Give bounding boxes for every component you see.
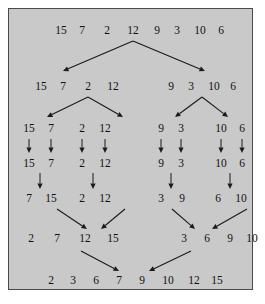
merge-sort-figure: 1572129310615721293106157212931061572129… <box>8 8 253 290</box>
arrow-head-5 <box>222 112 228 117</box>
arrow-head-6 <box>26 148 31 154</box>
value-row3-g0-1: 7 <box>48 123 54 135</box>
value-row4-g1-0: 2 <box>79 158 85 170</box>
arrow-head-14 <box>37 184 42 190</box>
value-row7-g0-5: 10 <box>162 275 174 287</box>
arrow-head-11 <box>178 148 183 154</box>
value-row6-g0-2: 12 <box>79 233 91 245</box>
arrow-head-18 <box>81 224 87 229</box>
value-row1-g0-1: 7 <box>79 25 85 37</box>
arrow-line-20 <box>172 209 191 225</box>
arrow-line-18 <box>57 209 82 226</box>
value-row4-g0-1: 7 <box>48 158 54 170</box>
value-row6-g1-1: 6 <box>204 233 210 245</box>
value-row7-g0-3: 7 <box>116 275 122 287</box>
value-row4-g0-0: 15 <box>23 158 35 170</box>
value-row4-g2-1: 3 <box>178 158 184 170</box>
value-row5-g1-0: 2 <box>79 193 85 205</box>
value-row2-g1-3: 6 <box>230 81 236 93</box>
value-row2-g1-1: 3 <box>188 81 194 93</box>
arrow-head-15 <box>90 184 95 190</box>
arrow-line-2 <box>52 97 88 115</box>
arrow-line-5 <box>202 97 224 114</box>
value-row7-g0-2: 6 <box>93 275 99 287</box>
value-row6-g0-1: 7 <box>54 233 60 245</box>
value-row4-g3-0: 10 <box>215 158 227 170</box>
value-row2-g0-1: 7 <box>60 81 66 93</box>
arrow-line-23 <box>154 251 191 269</box>
arrow-line-0 <box>68 41 133 69</box>
value-row1-g0-5: 3 <box>174 25 180 37</box>
arrow-head-10 <box>158 148 163 154</box>
value-row5-g2-0: 3 <box>158 193 164 205</box>
value-row7-g0-4: 9 <box>139 275 145 287</box>
value-row3-g3-0: 10 <box>215 123 227 135</box>
arrow-head-8 <box>79 148 84 154</box>
value-row6-g1-0: 3 <box>181 233 187 245</box>
value-row6-g0-0: 2 <box>28 233 34 245</box>
value-row5-g0-0: 7 <box>26 193 32 205</box>
value-row7-g0-0: 2 <box>48 275 54 287</box>
arrow-layer <box>9 9 254 291</box>
arrow-head-4 <box>175 112 181 117</box>
value-row3-g2-0: 9 <box>158 123 164 135</box>
value-row2-g0-3: 12 <box>107 81 119 93</box>
value-row3-g0-0: 15 <box>23 123 35 135</box>
arrow-head-12 <box>218 148 223 154</box>
value-row4-g2-0: 9 <box>158 158 164 170</box>
arrow-line-22 <box>81 251 114 268</box>
arrow-line-4 <box>179 97 202 114</box>
value-row7-g0-1: 3 <box>70 275 76 287</box>
arrow-line-21 <box>217 209 247 226</box>
value-row1-g0-6: 10 <box>194 25 206 37</box>
value-row3-g2-1: 3 <box>178 123 184 135</box>
value-row5-g2-1: 9 <box>179 193 185 205</box>
value-row2-g1-2: 10 <box>208 81 220 93</box>
value-row5-g3-0: 6 <box>215 193 221 205</box>
value-row1-g0-7: 6 <box>218 25 224 37</box>
value-row3-g3-1: 6 <box>239 123 245 135</box>
value-row1-g0-3: 12 <box>127 25 139 37</box>
value-row1-g0-0: 15 <box>55 25 67 37</box>
value-row3-g1-0: 2 <box>79 123 85 135</box>
arrow-head-9 <box>102 148 107 154</box>
value-row7-g0-6: 12 <box>188 275 200 287</box>
value-row7-g0-7: 15 <box>211 275 223 287</box>
diagram-canvas: 1572129310615721293106157212931061572129… <box>9 9 252 289</box>
value-row5-g1-1: 12 <box>99 193 111 205</box>
value-row4-g3-1: 6 <box>239 158 245 170</box>
arrow-head-13 <box>239 148 244 154</box>
arrow-head-16 <box>168 184 173 190</box>
value-row6-g1-3: 10 <box>246 233 258 245</box>
arrow-head-7 <box>48 148 53 154</box>
value-row2-g0-0: 15 <box>35 81 47 93</box>
arrow-line-19 <box>105 209 125 225</box>
arrow-line-3 <box>88 97 118 114</box>
arrow-head-17 <box>227 184 232 190</box>
value-row2-g0-2: 2 <box>85 81 91 93</box>
value-row4-g1-1: 12 <box>99 158 111 170</box>
value-row1-g0-4: 9 <box>154 25 160 37</box>
value-row5-g3-1: 10 <box>235 193 247 205</box>
value-row2-g1-0: 9 <box>168 81 174 93</box>
value-row6-g1-2: 9 <box>227 233 233 245</box>
arrow-line-1 <box>133 41 200 69</box>
value-row6-g0-3: 15 <box>107 233 119 245</box>
value-row5-g0-1: 15 <box>45 193 57 205</box>
value-row3-g1-1: 12 <box>99 123 111 135</box>
value-row1-g0-2: 2 <box>104 25 110 37</box>
